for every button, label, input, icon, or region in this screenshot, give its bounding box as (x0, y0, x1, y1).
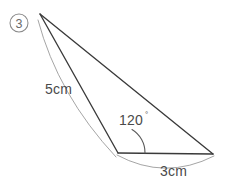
label-angle-degree-symbol: ° (145, 110, 148, 119)
item-number-label: 3 (15, 17, 22, 31)
geometry-figure: 3 5cm 3cm 120 ° (0, 0, 227, 182)
triangle-side-3cm (118, 153, 213, 154)
label-side-5cm: 5cm (45, 81, 72, 97)
item-number-badge: 3 (10, 14, 28, 32)
figure-canvas: 3 5cm 3cm 120 ° (0, 0, 227, 182)
label-side-3cm: 3cm (160, 163, 187, 179)
label-angle-group: 120 ° (119, 110, 148, 128)
angle-arc-120 (132, 130, 145, 154)
label-angle-value: 120 (119, 112, 143, 128)
